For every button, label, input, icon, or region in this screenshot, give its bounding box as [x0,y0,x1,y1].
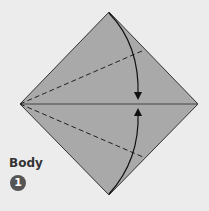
section-label: Body [9,156,43,170]
fold-diagram [0,0,209,211]
step-number-badge: 1 [10,175,26,191]
